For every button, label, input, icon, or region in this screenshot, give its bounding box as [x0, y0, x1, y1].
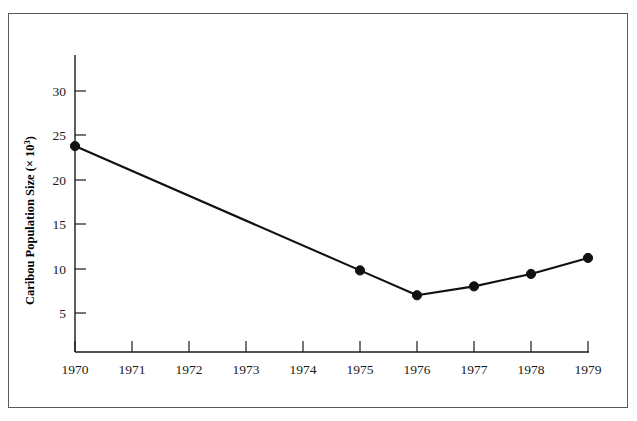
data-point-1970: [70, 141, 79, 150]
data-point-1976: [412, 291, 421, 300]
y-axis-title-suffix: ): [23, 136, 37, 140]
x-tick-label-1975: 1975: [347, 362, 374, 377]
y-axis-title-text: Caribou Population Size (× 10: [23, 144, 37, 305]
figure-container: Caribou Population Size (× 103) 30 25 20…: [0, 0, 637, 421]
data-point-1977: [469, 282, 478, 291]
y-axis-tick-labels: 30 25 20 15 10 5: [53, 84, 67, 321]
x-tick-label-1979: 1979: [575, 362, 602, 377]
y-tick-label-25: 25: [53, 128, 67, 143]
data-point-1978: [526, 269, 535, 278]
data-series-line: [75, 146, 588, 295]
x-tick-label-1976: 1976: [404, 362, 431, 377]
x-tick-label-1972: 1972: [176, 362, 203, 377]
svg-text:Caribou Population Size (× 103: Caribou Population Size (× 103): [22, 136, 37, 305]
data-series-markers: [70, 141, 592, 299]
y-tick-label-30: 30: [53, 84, 67, 99]
y-tick-label-10: 10: [53, 262, 67, 277]
x-axis-tick-labels: 1970 1971 1972 1973 1974 1975 1976 1977 …: [62, 362, 602, 377]
y-tick-label-5: 5: [59, 306, 66, 321]
y-tick-label-15: 15: [53, 217, 67, 232]
x-tick-label-1978: 1978: [518, 362, 545, 377]
chart-plot-area: Caribou Population Size (× 103) 30 25 20…: [0, 0, 637, 421]
data-point-1975: [355, 266, 364, 275]
y-tick-label-20: 20: [53, 173, 67, 188]
x-tick-label-1973: 1973: [233, 362, 260, 377]
data-point-1979: [583, 253, 592, 262]
x-tick-label-1977: 1977: [461, 362, 488, 377]
x-tick-label-1974: 1974: [290, 362, 317, 377]
y-axis-ticks: [75, 91, 86, 313]
y-axis-title: Caribou Population Size (× 103): [22, 136, 37, 305]
x-tick-label-1971: 1971: [119, 362, 146, 377]
x-axis-ticks: [75, 341, 588, 352]
x-tick-label-1970: 1970: [62, 362, 89, 377]
